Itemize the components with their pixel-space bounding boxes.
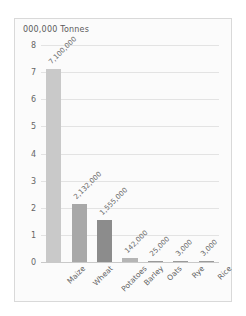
y-axis-tick-label: 2 [31, 203, 36, 212]
bar[interactable] [72, 204, 87, 262]
chart-panel: 000,000 Tonnes 012345678 7,100,0002,132,… [14, 18, 232, 302]
bar-value-label: 3,000 [174, 238, 194, 258]
bar-value-label: 25,000 [149, 235, 172, 258]
bar-value-label: 3,000 [200, 238, 220, 258]
bar-chart-figure: 000,000 Tonnes 012345678 7,100,0002,132,… [0, 0, 246, 316]
y-axis-tick-label: 4 [31, 149, 36, 158]
bar[interactable] [199, 261, 214, 262]
bar-slot: 2,132,000 [72, 45, 87, 262]
y-axis-tick-label: 0 [31, 258, 36, 267]
bar-value-label: 142,000 [123, 229, 149, 255]
bar[interactable] [97, 220, 112, 262]
y-axis-tick-label: 5 [31, 122, 36, 131]
y-axis-tick-label: 1 [31, 230, 36, 239]
bar-slot: 142,000 [122, 45, 137, 262]
bar[interactable] [148, 261, 163, 262]
bar[interactable] [122, 258, 137, 262]
y-axis-tick-label: 6 [31, 95, 36, 104]
gridline [41, 262, 219, 263]
bar-slot: 25,000 [148, 45, 163, 262]
bar-slot: 1,555,000 [97, 45, 112, 262]
x-axis-category-labels: MaizeWheatPotatoesBarleyOatsRyeRice [41, 264, 219, 304]
x-axis-tick-label: Oats [166, 264, 185, 283]
y-axis-tick-label: 3 [31, 176, 36, 185]
bar-slot: 3,000 [173, 45, 188, 262]
bar[interactable] [173, 261, 188, 262]
plot-area: 012345678 7,100,0002,132,0001,555,000142… [41, 45, 219, 262]
x-axis-tick-label: Rye [190, 264, 206, 280]
x-axis-tick-label: Maize [65, 264, 87, 286]
x-axis-tick-label: Rice [216, 264, 234, 282]
bar[interactable] [46, 69, 61, 262]
y-axis-tick-label: 7 [31, 68, 36, 77]
bar-slot: 7,100,000 [46, 45, 61, 262]
x-axis-tick-label: Wheat [91, 264, 115, 288]
chart-title: 000,000 Tonnes [23, 25, 89, 34]
bar-series: 7,100,0002,132,0001,555,000142,00025,000… [41, 45, 219, 262]
bar-slot: 3,000 [199, 45, 214, 262]
y-axis-tick-label: 8 [31, 41, 36, 50]
